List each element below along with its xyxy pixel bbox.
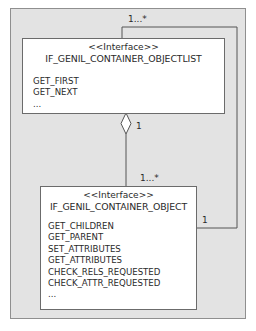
class-stereotype: <<Interface>> — [23, 42, 224, 53]
operation: GET_NEXT — [33, 87, 224, 98]
operation: ... — [48, 289, 196, 300]
operation: GET_CHILDREN — [48, 221, 196, 232]
class-operations: GET_FIRST GET_NEXT ... — [23, 76, 224, 110]
operation: GET_PARENT — [48, 232, 196, 243]
operation: CHECK_ATTR_REQUESTED — [48, 278, 196, 289]
operation: ... — [33, 99, 224, 110]
operation: GET_ATTRIBUTES — [48, 255, 196, 266]
class-name: IF_GENIL_CONTAINER_OBJECT — [41, 201, 196, 213]
operation: SET_ATTRIBUTES — [48, 244, 196, 255]
multiplicity-loop-top: 1...* — [128, 14, 147, 24]
operation: GET_FIRST — [33, 76, 224, 87]
class-box-objectlist: <<Interface>> IF_GENIL_CONTAINER_OBJECTL… — [22, 38, 225, 114]
aggregation-diamond-icon — [121, 113, 131, 134]
class-operations: GET_CHILDREN GET_PARENT SET_ATTRIBUTES G… — [41, 221, 196, 301]
multiplicity-loop-bottom: 1 — [202, 215, 208, 225]
class-name: IF_GENIL_CONTAINER_OBJECTLIST — [23, 53, 224, 65]
multiplicity-aggregation-target: 1...* — [140, 173, 159, 183]
class-stereotype: <<Interface>> — [41, 190, 196, 201]
class-box-object: <<Interface>> IF_GENIL_CONTAINER_OBJECT … — [40, 186, 197, 310]
multiplicity-aggregation-source: 1 — [136, 121, 142, 131]
operation: CHECK_RELS_REQUESTED — [48, 267, 196, 278]
